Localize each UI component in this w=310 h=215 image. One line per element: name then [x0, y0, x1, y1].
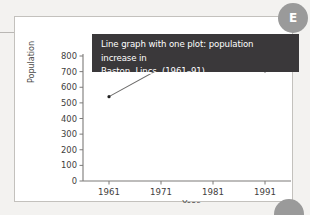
- y-axis-title: Population: [27, 41, 36, 83]
- y-tick-label: 0: [72, 176, 77, 186]
- x-axis-title: Year: [181, 199, 200, 203]
- y-tick-label: 700: [61, 67, 77, 77]
- y-tick-label: 200: [61, 145, 77, 155]
- figure-caption-banner: Line graph with one plot: population inc…: [92, 34, 299, 72]
- y-tick-label: 300: [61, 129, 77, 139]
- x-tick-label: 1991: [254, 187, 276, 197]
- data-point-marker: [107, 95, 110, 98]
- y-tick-label: 100: [61, 160, 77, 170]
- y-tick-label: 600: [61, 82, 77, 92]
- y-tick-label: 400: [61, 114, 77, 124]
- section-badge-e[interactable]: E: [278, 3, 308, 33]
- x-tick-label: 1961: [98, 187, 120, 197]
- figure-panel: 0100200300400500600700800196119711981199…: [14, 16, 293, 202]
- figure-caption-text: Line graph with one plot: population inc…: [101, 38, 291, 79]
- x-tick-label: 1981: [202, 187, 224, 197]
- y-tick-label: 500: [61, 98, 77, 108]
- page-background: 0100200300400500600700800196119711981199…: [0, 0, 310, 215]
- x-tick-label: 1971: [150, 187, 172, 197]
- y-tick-label: 800: [61, 51, 77, 61]
